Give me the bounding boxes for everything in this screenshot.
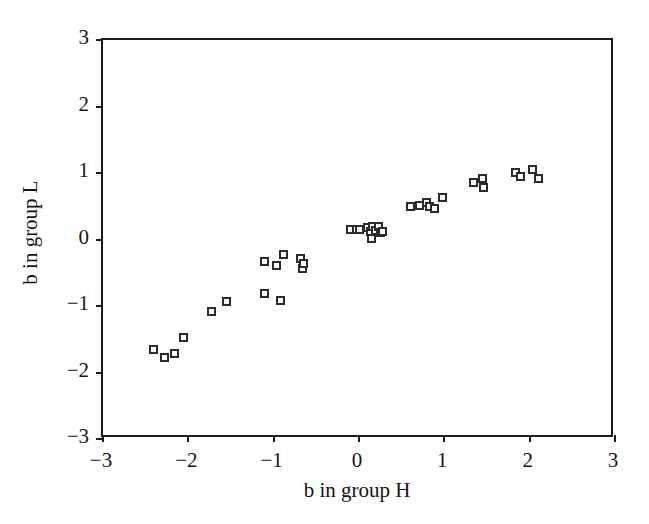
- x-axis-tick-label: 0: [337, 450, 377, 471]
- x-axis-tick-label: 3: [593, 450, 633, 471]
- scatter-plot-figure: 3210−1−2−3 −3−2−10123 b in group H b in …: [0, 0, 649, 524]
- y-axis-title: b in group L: [18, 33, 43, 433]
- x-axis-tick-label: −3: [81, 450, 121, 471]
- x-axis-tick-label: 1: [422, 450, 462, 471]
- x-axis-tick-label: 2: [508, 450, 548, 471]
- x-axis-tick-label: −2: [166, 450, 206, 471]
- x-axis-tick-labels: −3−2−10123: [0, 0, 649, 524]
- x-axis-tick-label: −1: [252, 450, 292, 471]
- x-axis-title: b in group H: [101, 478, 613, 503]
